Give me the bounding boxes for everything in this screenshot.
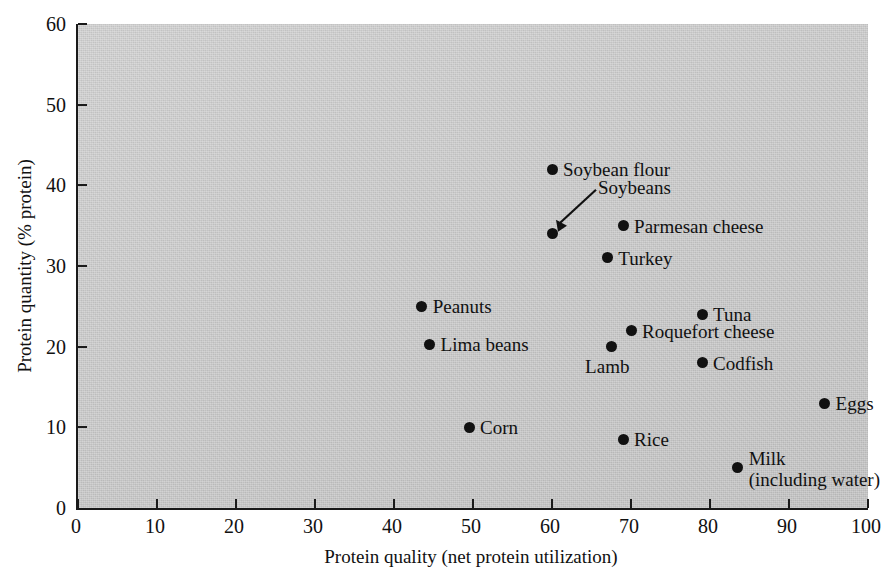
x-axis-tick-label: 30	[303, 516, 323, 536]
y-axis-tick	[78, 346, 87, 348]
x-axis-tick-label: 20	[224, 516, 244, 536]
data-point-label: Parmesan cheese	[634, 215, 763, 236]
x-axis-tick	[788, 499, 790, 508]
data-point	[547, 164, 558, 175]
data-point-label-text: Eggs	[836, 393, 874, 414]
x-axis-tick-label: 60	[540, 516, 560, 536]
data-point	[697, 309, 708, 320]
data-point-label-text: Lamb	[585, 356, 629, 377]
y-axis-tick-label: 40	[30, 175, 66, 195]
data-point	[547, 228, 558, 239]
y-axis-tick-label: 60	[30, 14, 66, 34]
data-point-label: Lima beans	[441, 334, 529, 355]
y-axis-tick-label: 30	[30, 256, 66, 276]
data-point	[618, 220, 629, 231]
scatter-chart-figure: Soybean flourParmesan cheeseTurkeyPeanut…	[0, 0, 890, 582]
x-axis-tick-label: 100	[851, 516, 881, 536]
x-axis-tick-label: 70	[619, 516, 639, 536]
annotation-label: Soybeans	[598, 177, 671, 198]
data-point-label-text: Milk	[749, 448, 880, 469]
data-point-label: Eggs	[836, 393, 874, 414]
data-point	[424, 339, 435, 350]
data-point-label-text: Rice	[634, 429, 669, 450]
data-point	[732, 462, 743, 473]
data-point-label: Roquefort cheese	[642, 320, 774, 341]
plot-background-shading	[78, 24, 868, 508]
data-point	[618, 434, 629, 445]
data-point-label-text: Corn	[480, 417, 518, 438]
x-axis-tick	[314, 499, 316, 508]
y-axis-tick-label: 10	[30, 417, 66, 437]
y-axis-tick	[78, 23, 87, 25]
data-point	[464, 422, 475, 433]
data-point	[602, 252, 613, 263]
y-axis-tick-label: 20	[30, 337, 66, 357]
data-point	[626, 325, 637, 336]
x-axis-tick	[551, 499, 553, 508]
data-point-label: Peanuts	[433, 296, 492, 317]
data-point	[819, 398, 830, 409]
data-point-label-text: Peanuts	[433, 296, 492, 317]
data-point-label: Corn	[480, 417, 518, 438]
data-point	[416, 301, 427, 312]
x-axis-tick	[472, 499, 474, 508]
data-point	[606, 341, 617, 352]
data-point-label: Lamb	[585, 356, 629, 377]
data-point-label-text: Parmesan cheese	[634, 215, 763, 236]
data-point-label-text: Lima beans	[441, 334, 529, 355]
y-axis-tick	[78, 104, 87, 106]
x-axis-tick-label: 90	[777, 516, 797, 536]
x-axis-tick-label: 40	[382, 516, 402, 536]
x-axis-tick	[235, 499, 237, 508]
x-axis-tick	[630, 499, 632, 508]
y-axis-tick	[78, 265, 87, 267]
data-point-label: Rice	[634, 429, 669, 450]
x-axis-title: Protein quality (net protein utilization…	[76, 546, 866, 568]
data-point-label: Codfish	[713, 352, 773, 373]
data-point-label-text: Turkey	[618, 247, 672, 268]
x-axis-tick-label: 10	[145, 516, 165, 536]
data-point-label-text: Roquefort cheese	[642, 320, 774, 341]
x-axis-tick	[77, 499, 79, 508]
x-axis-tick	[867, 499, 869, 508]
y-axis-tick	[78, 184, 87, 186]
plot-area: Soybean flourParmesan cheeseTurkeyPeanut…	[76, 24, 868, 510]
x-axis-tick-label: 80	[698, 516, 718, 536]
x-axis-tick	[393, 499, 395, 508]
x-axis-tick-label: 0	[71, 516, 81, 536]
soybeans-leader-arrow	[78, 24, 868, 508]
y-axis-tick-label: 50	[30, 95, 66, 115]
y-axis-tick-label: 0	[30, 498, 66, 518]
data-point-label: Turkey	[618, 247, 672, 268]
x-axis-tick	[709, 499, 711, 508]
x-axis-tick-label: 50	[461, 516, 481, 536]
data-point-sublabel-text: (including water)	[749, 469, 880, 490]
data-point-label-text: Codfish	[713, 352, 773, 373]
x-axis-tick	[156, 499, 158, 508]
data-point-label: Milk(including water)	[749, 448, 880, 490]
y-axis-tick	[78, 426, 87, 428]
plot-background-texture	[78, 24, 868, 508]
data-point	[697, 357, 708, 368]
